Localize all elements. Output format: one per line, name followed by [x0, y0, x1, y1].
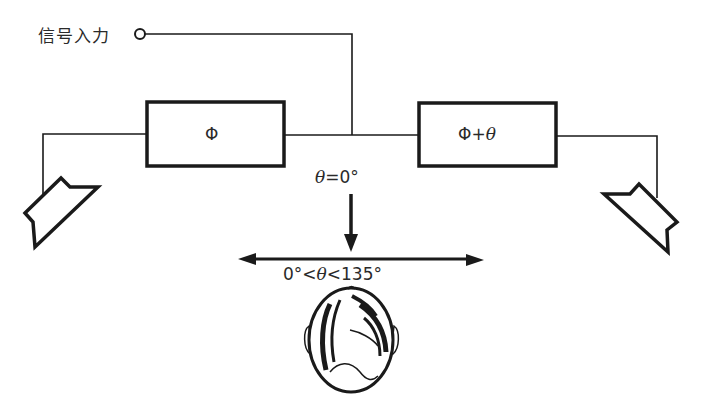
theta-symbol: θ: [486, 124, 496, 144]
range-prefix: 0°<: [283, 264, 317, 284]
right-arrowhead-icon: [466, 254, 484, 266]
theta-symbol: θ: [315, 167, 325, 187]
phase-block-right-label: Φ+θ: [458, 124, 496, 144]
left-arrowhead-icon: [238, 253, 256, 265]
theta-zero-text: =0°: [325, 167, 359, 187]
listener-head-icon: [305, 287, 399, 392]
left-speaker-icon: [25, 178, 98, 247]
input-terminal-icon: [135, 29, 145, 39]
diagram-canvas: [0, 0, 703, 408]
right-speaker-icon: [604, 184, 677, 252]
range-suffix: <135°: [327, 264, 382, 284]
phase-block-left-label: Φ: [205, 124, 218, 144]
theta-zero-annotation: θ=0°: [315, 167, 359, 187]
theta-range-annotation: 0°<θ<135°: [283, 264, 382, 284]
phase-plus-text: Φ+: [458, 124, 486, 144]
down-arrow-icon: [344, 234, 358, 252]
signal-input-label: 信号入力: [38, 22, 110, 47]
theta-symbol: θ: [317, 264, 327, 284]
